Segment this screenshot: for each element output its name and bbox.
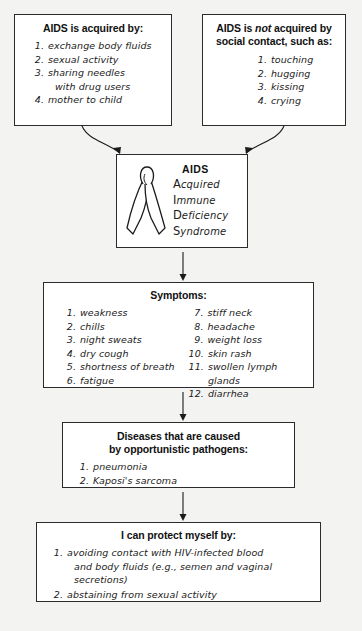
protect-myself-box: I can protect myself by: 1. avoiding con… — [36, 522, 321, 602]
diseases-heading-line-2: by opportunistic pathogens: — [68, 443, 289, 456]
list-number: 2. — [252, 67, 271, 81]
list-number: 1. — [29, 39, 48, 53]
symptoms-column-left: 1. weakness 2. chills 3. night sweats — [49, 306, 179, 401]
list-number: 3. — [61, 333, 80, 347]
not-acquired-box: AIDS is not acquired by social contact, … — [202, 14, 346, 126]
symptoms-box: Symptoms: 1. weakness 2. chills 3. — [43, 282, 314, 388]
list-item: 1. touching — [252, 53, 340, 67]
symptoms-columns: 1. weakness 2. chills 3. night sweats — [49, 306, 308, 401]
list-text: sexual activity — [48, 53, 165, 67]
diagram-canvas: AIDS is acquired by: 1. exchange body fl… — [0, 0, 362, 631]
acronym-rest: cquired — [181, 179, 220, 190]
acronym-capital: A — [173, 177, 181, 191]
list-item: 12. diarrhea — [189, 387, 309, 401]
connector-center-to-symptoms — [178, 252, 188, 282]
list-number: 8. — [189, 320, 208, 334]
list-text: chills — [80, 320, 179, 334]
awareness-ribbon-icon — [121, 160, 173, 243]
list-item: 3. kissing — [252, 80, 340, 94]
protect-heading: I can protect myself by: — [42, 529, 315, 542]
aids-acronym-box: AIDS Acquired Immune Deficiency Syndrome — [116, 154, 248, 248]
list-item: 1. pneumonia — [74, 460, 289, 474]
list-text-continuation-2: secretions) — [67, 573, 315, 587]
list-text: night sweats — [80, 333, 179, 347]
acronym-row-i: Immune — [173, 193, 243, 209]
list-text: stiff neck — [208, 306, 309, 320]
list-text: shortness of breath — [80, 360, 179, 374]
list-number: 1. — [74, 460, 93, 474]
acquired-by-box: AIDS is acquired by: 1. exchange body fl… — [14, 14, 172, 126]
list-number: 7. — [189, 306, 208, 320]
acronym-row-a: Acquired — [173, 177, 243, 193]
symptoms-column-right: 7. stiff neck 8. headache 9. weight loss — [179, 306, 309, 401]
list-text: headache — [208, 320, 309, 334]
list-number: 10. — [189, 347, 208, 361]
list-text: dry cough — [80, 347, 179, 361]
diseases-heading: Diseases that are caused by opportunisti… — [68, 430, 289, 456]
list-text: avoiding contact with HIV-infected blood — [67, 547, 263, 558]
list-text: hugging — [271, 67, 340, 81]
list-text: weight loss — [208, 333, 309, 347]
list-item: 6. fatigue — [61, 374, 179, 388]
list-number: 3. — [252, 80, 271, 94]
list-text-continuation: with drug users — [48, 80, 165, 94]
list-number: 12. — [189, 387, 208, 401]
list-number: 2. — [48, 588, 67, 602]
list-item: 1. exchange body fluids — [29, 39, 165, 53]
list-number: 1. — [252, 53, 271, 67]
list-item: 1. avoiding contact with HIV-infected bl… — [48, 546, 315, 587]
diseases-box: Diseases that are caused by opportunisti… — [62, 422, 295, 488]
list-item: 2. abstaining from sexual activity — [48, 588, 315, 602]
connector-diseases-to-protect — [178, 492, 188, 522]
list-item: 11. swollen lymph glands — [189, 360, 309, 387]
acronym-rest: eficiency — [182, 210, 228, 221]
list-item: 3. sharing needles with drug users — [29, 66, 165, 93]
acronym-rest: mmune — [176, 195, 215, 206]
list-text: pneumonia — [93, 460, 289, 474]
list-text: fatigue — [80, 374, 179, 388]
list-number: 11. — [189, 360, 208, 374]
list-text: crying — [271, 94, 340, 108]
list-item: 9. weight loss — [189, 333, 309, 347]
list-text: swollen lymph glands — [208, 360, 308, 387]
list-text: abstaining from sexual activity — [67, 588, 315, 602]
diseases-list: 1. pneumonia 2. Kaposi's sarcoma — [68, 460, 289, 487]
acquired-by-list: 1. exchange body fluids 2. sexual activi… — [21, 39, 165, 107]
list-number: 3. — [29, 66, 48, 80]
list-number: 4. — [29, 93, 48, 107]
acronym-text-block: AIDS Acquired Immune Deficiency Syndrome — [173, 160, 243, 243]
symptoms-heading: Symptoms: — [49, 289, 308, 302]
list-text: sharing needles — [48, 67, 125, 78]
not-acquired-heading: AIDS is not acquired by social contact, … — [208, 22, 340, 48]
list-number: 2. — [61, 320, 80, 334]
list-text: kissing — [271, 80, 340, 94]
acronym-row-s: Syndrome — [173, 224, 243, 240]
list-text: touching — [271, 53, 340, 67]
list-item: 4. dry cough — [61, 347, 179, 361]
list-number: 5. — [61, 360, 80, 374]
list-item: 1. weakness — [61, 306, 179, 320]
list-number: 1. — [48, 546, 67, 560]
protect-list: 1. avoiding contact with HIV-infected bl… — [42, 546, 315, 601]
list-number: 4. — [61, 347, 80, 361]
diseases-heading-line-1: Diseases that are caused — [68, 430, 289, 443]
list-number: 2. — [74, 474, 93, 488]
list-number: 4. — [252, 94, 271, 108]
list-item: 7. stiff neck — [189, 306, 309, 320]
acronym-row-d: Deficiency — [173, 208, 243, 224]
list-number: 6. — [61, 374, 80, 388]
list-text-continuation-1: and body fluids (e.g., semen and vaginal — [67, 560, 315, 574]
heading-part-1: AIDS is — [216, 22, 255, 34]
list-item: 2. sexual activity — [29, 53, 165, 67]
list-text: exchange body fluids — [48, 39, 165, 53]
list-text: mother to child — [48, 93, 165, 107]
acronym-title: AIDS — [173, 163, 243, 175]
heading-line-2: social contact, such as: — [208, 35, 340, 48]
heading-italic-not: not — [255, 22, 271, 34]
list-item: 2. hugging — [252, 67, 340, 81]
list-item: 3. night sweats — [61, 333, 179, 347]
acronym-rest: yndrome — [180, 226, 226, 237]
acronym-capital: D — [173, 208, 182, 222]
not-acquired-list: 1. touching 2. hugging 3. kissing 4. cry… — [208, 53, 340, 107]
acquired-by-heading: AIDS is acquired by: — [21, 22, 165, 35]
